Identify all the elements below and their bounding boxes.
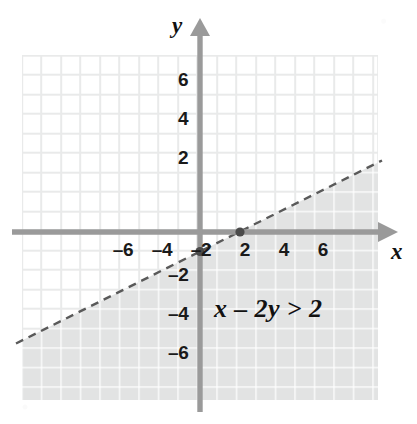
y-axis-name: y [172,14,182,37]
y-tick-label-6: 6 [178,70,188,89]
x-tick-label-4: 4 [279,240,289,259]
y-tick-label-minus4: –4 [168,304,189,323]
y-tick-label-minus6: –6 [168,343,189,362]
y-tick-label-4: 4 [178,109,188,128]
x-tick-label-6: 6 [318,240,328,259]
x-tick-label-minus6: –6 [113,240,134,259]
x-tick-label-minus2: –2 [191,240,212,259]
x-tick-label-minus4: –4 [152,240,173,259]
x-axis-name: x [391,240,403,263]
point-dot-icon [235,227,244,236]
arrow-up-icon [190,18,210,36]
inequality-label: x – 2y > 2 [214,296,322,322]
axes-layer [0,0,417,424]
y-tick-label-2: 2 [178,148,188,167]
y-tick-label-minus2: –2 [168,265,189,284]
inequality-graph-figure: –6 –4 –2 2 4 6 6 4 2 –2 –4 –6 y x x – 2y… [0,0,417,424]
x-tick-label-2: 2 [240,240,250,259]
